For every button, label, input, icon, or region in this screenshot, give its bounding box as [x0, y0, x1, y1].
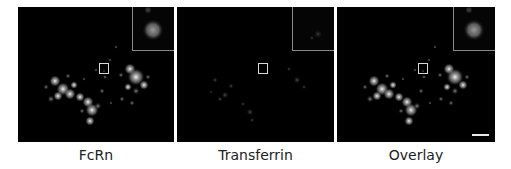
panel-label-transferrin: Transferrin: [177, 147, 334, 163]
image-panel-fcrn: [18, 7, 174, 142]
roi-box: [99, 63, 109, 74]
zoom-inset: [132, 7, 174, 51]
panel-label-fcrn: FcRn: [18, 147, 174, 163]
image-panel-overlay: [337, 7, 495, 142]
image-panel-transferrin: [177, 7, 334, 142]
inset-vesicle: [133, 7, 174, 51]
panel-label-overlay: Overlay: [337, 147, 495, 163]
zoom-inset: [292, 7, 334, 51]
roi-box: [418, 63, 428, 74]
inset-vesicle: [454, 7, 495, 51]
roi-box: [258, 63, 268, 74]
scale-bar: [472, 134, 489, 136]
zoom-inset: [453, 7, 495, 51]
inset-vesicle: [293, 7, 334, 51]
